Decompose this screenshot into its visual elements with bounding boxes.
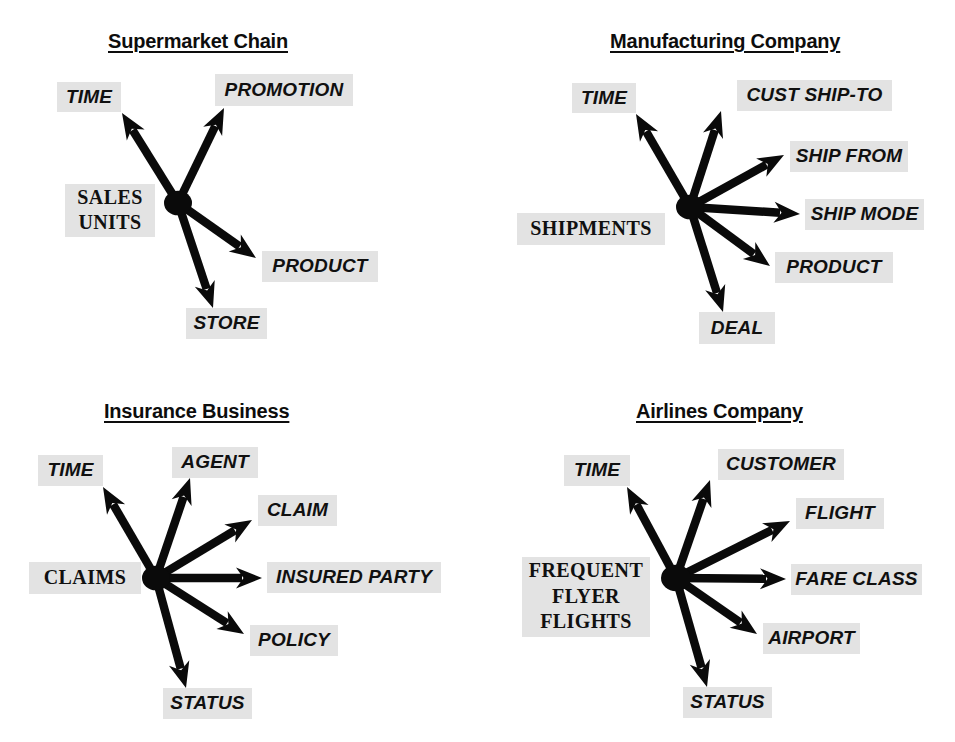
hub-insurance-business xyxy=(142,566,170,591)
dimension-node-supermarket-chain-time: TIME xyxy=(57,82,121,112)
dimension-node-supermarket-chain-store: STORE xyxy=(186,308,267,339)
star-schema-figure: Supermarket ChainSALESUNITSTIMEPROMOTION… xyxy=(0,0,955,742)
fact-node-line: FLYER xyxy=(552,584,620,609)
dimension-node-manufacturing-company-cust-ship-to: CUST SHIP-TO xyxy=(737,80,892,111)
hub-supermarket-chain xyxy=(164,191,192,216)
diagram-title-manufacturing-company: Manufacturing Company xyxy=(610,30,840,53)
fact-node-line: FREQUENT xyxy=(529,558,643,583)
dimension-node-airlines-company-flight: FLIGHT xyxy=(796,498,884,529)
fact-node-airlines-company: FREQUENTFLYERFLIGHTS xyxy=(522,557,650,637)
hub-manufacturing-company xyxy=(676,195,704,220)
fact-node-line: SHIPMENTS xyxy=(530,216,651,241)
fact-node-insurance-business: CLAIMS xyxy=(29,562,141,594)
dimension-node-supermarket-chain-promotion: PROMOTION xyxy=(215,74,353,106)
dimension-node-insurance-business-status: STATUS xyxy=(163,688,252,719)
dimension-node-insurance-business-claim: CLAIM xyxy=(258,495,337,526)
fact-node-line: SALES xyxy=(77,185,142,210)
fact-node-supermarket-chain: SALESUNITS xyxy=(65,184,155,237)
fact-node-line: UNITS xyxy=(78,210,141,235)
dimension-node-manufacturing-company-time: TIME xyxy=(572,83,636,113)
fact-node-manufacturing-company: SHIPMENTS xyxy=(517,213,665,245)
diagram-title-supermarket-chain: Supermarket Chain xyxy=(108,30,288,53)
arrow-manufacturing-company-time xyxy=(636,114,690,207)
dimension-node-insurance-business-time: TIME xyxy=(38,455,103,486)
hub-airlines-company xyxy=(661,565,691,591)
dimension-node-supermarket-chain-product: PRODUCT xyxy=(262,251,378,282)
dimension-node-manufacturing-company-ship-mode: SHIP MODE xyxy=(805,199,924,230)
dimension-node-insurance-business-insured-party: INSURED PARTY xyxy=(267,562,441,593)
diagram-title-insurance-business: Insurance Business xyxy=(104,400,289,423)
dimension-node-insurance-business-policy: POLICY xyxy=(250,625,338,656)
fact-node-line: CLAIMS xyxy=(44,565,126,590)
dimension-node-insurance-business-agent: AGENT xyxy=(172,447,258,478)
dimension-node-airlines-company-time: TIME xyxy=(564,455,630,486)
dimension-node-airlines-company-airport: AIRPORT xyxy=(763,623,860,654)
diagram-title-airlines-company: Airlines Company xyxy=(636,400,803,423)
dimension-node-airlines-company-fare-class: FARE CLASS xyxy=(791,564,922,595)
dimension-node-manufacturing-company-product: PRODUCT xyxy=(775,252,893,283)
arrow-supermarket-chain-promotion xyxy=(178,108,224,203)
fact-node-line: FLIGHTS xyxy=(540,609,632,634)
dimension-node-manufacturing-company-deal: DEAL xyxy=(699,312,775,344)
dimension-node-airlines-company-customer: CUSTOMER xyxy=(718,449,844,480)
dimension-node-airlines-company-status: STATUS xyxy=(683,687,772,718)
dimension-node-manufacturing-company-ship-from: SHIP FROM xyxy=(790,141,908,172)
